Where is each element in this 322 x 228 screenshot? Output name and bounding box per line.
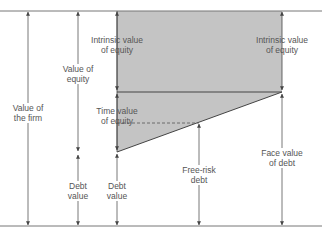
label-line: of equity: [256, 45, 308, 55]
label-line: equity: [63, 74, 94, 84]
label-line: Debt: [107, 181, 127, 191]
label-line: of equity: [96, 116, 137, 126]
free-risk-debt-label: Free-risk debt: [182, 165, 216, 185]
face-value-debt-label: Face value of debt: [261, 148, 303, 168]
label-line: value: [68, 191, 88, 201]
label-line: Debt: [68, 181, 88, 191]
label-line: the firm: [13, 113, 44, 123]
debt-value-mid-label: Debt value: [107, 181, 127, 201]
value-of-firm-label: Value of the firm: [13, 103, 44, 123]
label-line: value: [107, 191, 127, 201]
label-line: debt: [182, 175, 216, 185]
equity-shaded-region: [117, 11, 282, 152]
debt-value-left-label: Debt value: [68, 181, 88, 201]
label-line: of debt: [261, 158, 303, 168]
intrinsic-value-right-label: Intrinsic value of equity: [256, 35, 308, 55]
label-line: Value of: [13, 103, 44, 113]
label-line: Value of: [63, 64, 94, 74]
label-line: Intrinsic value: [256, 35, 308, 45]
label-line: Intrinsic value: [91, 35, 143, 45]
label-line: Time value: [96, 106, 137, 116]
label-line: Face value: [261, 148, 303, 158]
label-line: Free-risk: [182, 165, 216, 175]
time-value-label: Time value of equity: [96, 106, 137, 126]
label-line: of equity: [91, 45, 143, 55]
intrinsic-value-left-label: Intrinsic value of equity: [91, 35, 143, 55]
value-of-equity-label: Value of equity: [63, 64, 94, 84]
